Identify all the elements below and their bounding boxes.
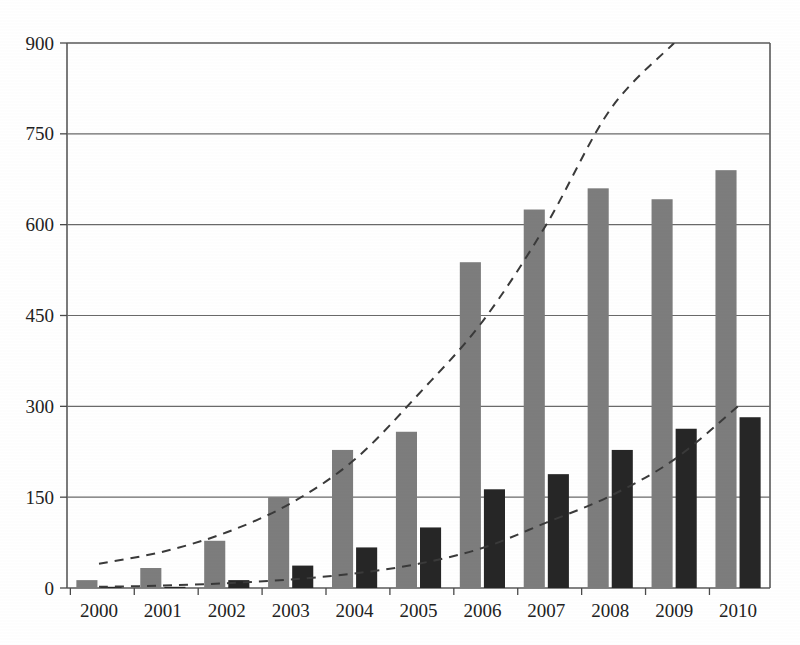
x-tick-label-2000: 2000 (80, 600, 118, 621)
x-tick-label-2007: 2007 (527, 600, 565, 621)
bar-chart: 0150300450600750900 20002001200220032004… (0, 0, 800, 645)
bar-series-1-2003 (268, 497, 289, 588)
bar-series-2-2006 (484, 489, 505, 588)
x-tick-label-2001: 2001 (144, 600, 182, 621)
bar-series-1-2006 (460, 262, 481, 588)
y-tick-label-750: 750 (26, 123, 55, 144)
bar-series-1-2010 (715, 170, 736, 588)
chart-container: 0150300450600750900 20002001200220032004… (0, 0, 800, 645)
x-tick-label-2010: 2010 (719, 600, 757, 621)
x-tick-label-2008: 2008 (591, 600, 629, 621)
x-tick-label-2006: 2006 (463, 600, 501, 621)
bar-series-2-2007 (548, 474, 569, 588)
x-tick-label-2003: 2003 (272, 600, 310, 621)
bar-series-1-2005 (396, 432, 417, 588)
bar-series-2-2001 (164, 587, 185, 588)
bar-series-1-2002 (204, 541, 225, 588)
x-tick-label-2005: 2005 (400, 600, 438, 621)
bar-series-2-2005 (420, 527, 441, 588)
y-tick-label-450: 450 (26, 305, 55, 326)
bar-series-2-2009 (676, 429, 697, 588)
y-tick-label-900: 900 (26, 33, 55, 54)
y-tick-label-150: 150 (26, 487, 55, 508)
x-tick-label-2004: 2004 (336, 600, 375, 621)
bar-series-2-2003 (292, 566, 313, 588)
bar-series-2-2010 (740, 417, 761, 588)
bar-series-1-2008 (588, 188, 609, 588)
bar-series-2-2008 (612, 450, 633, 588)
bar-series-1-2000 (76, 580, 97, 588)
x-tick-label-2009: 2009 (655, 600, 693, 621)
y-tick-label-300: 300 (26, 396, 55, 417)
bar-series-1-2009 (652, 199, 673, 588)
y-tick-label-600: 600 (26, 214, 55, 235)
bar-series-2-2004 (356, 547, 377, 588)
y-tick-label-0: 0 (45, 578, 55, 599)
x-tick-label-2002: 2002 (208, 600, 246, 621)
